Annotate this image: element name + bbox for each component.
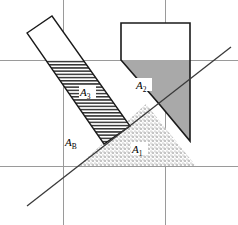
region-a3-hatched-rectangle — [27, 16, 130, 144]
svg-text:AB: AB — [64, 136, 77, 151]
label-a2-sub: 2 — [143, 85, 147, 94]
label-ab-sub: B — [72, 142, 77, 151]
figure-container: A3 A2 A1 AB — [0, 0, 238, 225]
label-a1-sub: 1 — [139, 149, 143, 158]
geometry-diagram: A3 A2 A1 AB — [0, 0, 238, 225]
label-ab: AB — [64, 136, 77, 151]
label-a3-sub: 3 — [87, 92, 91, 101]
